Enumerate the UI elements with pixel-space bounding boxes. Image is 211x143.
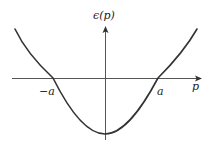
dispersion-figure: ϵ(p) p −a a <box>0 0 211 143</box>
tick-label-a: a <box>157 85 164 98</box>
tick-label-minus-a: −a <box>39 85 55 98</box>
x-axis-label: p <box>192 80 199 93</box>
y-axis-label: ϵ(p) <box>93 9 115 22</box>
plot-canvas: ϵ(p) p −a a <box>0 0 211 143</box>
